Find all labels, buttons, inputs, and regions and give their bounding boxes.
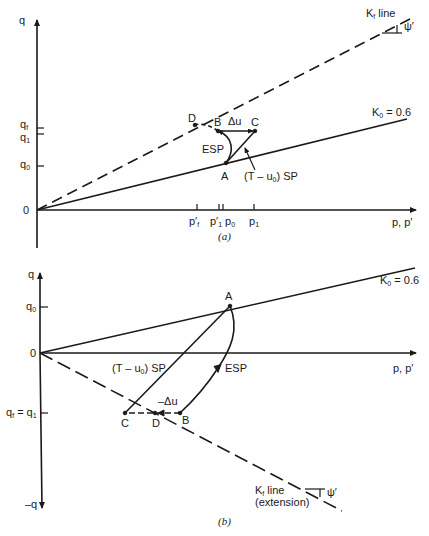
k0-line-b (40, 268, 415, 353)
tsp-label-b: (T – u0) SP (112, 362, 166, 375)
caption-b: (b) (218, 515, 231, 528)
point-label-d-a: D (188, 112, 196, 124)
caption-a: (a) (218, 230, 231, 243)
point-label-a-a: A (221, 170, 229, 182)
q-axis-label-b: q (28, 268, 34, 280)
neg-q-axis-label-b: –q (25, 498, 37, 510)
point-label-a-b: A (225, 290, 233, 302)
point-a-a (224, 161, 228, 165)
p0-label-a: p0 (225, 215, 235, 228)
p-axis-label-a: p, p′ (392, 216, 412, 228)
point-label-d-b: D (152, 417, 160, 429)
kf-ext-line-b (40, 353, 342, 511)
psi-label-b: ψ′ (327, 486, 337, 498)
psi-label-a: ψ′ (404, 20, 414, 32)
p1prime-label-a: p′1 (210, 215, 222, 228)
p1-label-a: p1 (249, 215, 259, 228)
esp-label-a: ESP (202, 143, 224, 155)
origin-label-b: 0 (30, 347, 36, 359)
point-label-c-b: C (121, 417, 129, 429)
point-b-a (216, 129, 220, 133)
point-label-c-a: C (251, 116, 259, 128)
q1-label-a: q1 (20, 131, 30, 144)
pf-label-a: p′f (189, 215, 199, 228)
delta-u-arrowhead-b (158, 410, 164, 416)
delta-u-label-a: Δu (228, 115, 241, 127)
panel-b-labels: q q0 0 qf = q1 –q p, p′ K0 = 0.6 A ESP (… (6, 268, 419, 528)
p-axis-label-b: p, p′ (393, 362, 413, 374)
point-label-b-b: B (182, 414, 189, 426)
stress-path-diagram: q 0 qf q1 q0 p′f p′1 p0 p1 p, p′ (a) Kf … (0, 0, 429, 536)
k0-label-a: K0 = 0.6 (372, 106, 411, 119)
panel-a (37, 17, 416, 248)
q-axis-label-a: q (19, 14, 25, 26)
esp-arrowhead-b (214, 364, 221, 372)
esp-curve-b (180, 306, 234, 413)
kf-line-label-a: Kf line (366, 7, 395, 20)
origin-label-a: 0 (23, 204, 29, 216)
point-c-a (253, 129, 257, 133)
k0-label-b: K0 = 0.6 (380, 274, 419, 287)
panel-a-labels: q 0 qf q1 q0 p′f p′1 p0 p1 p, p′ (a) Kf … (19, 7, 414, 243)
tsp-label-a: (T – u0) SP (244, 170, 298, 183)
q0-label-a: q0 (20, 158, 30, 171)
point-a-b (228, 304, 232, 308)
q-axis-down-b (40, 353, 42, 508)
panel-b (40, 268, 416, 511)
esp-label-b: ESP (225, 362, 247, 374)
point-d-b (153, 411, 157, 415)
qf-label-a: qf (20, 118, 28, 131)
qf-q1-label-b: qf = q1 (6, 406, 37, 419)
point-c-b (123, 411, 127, 415)
kf-ext-sublabel-b: (extension) (255, 496, 309, 508)
delta-u-label-b: –Δu (158, 395, 178, 407)
point-label-b-a: B (214, 116, 221, 128)
q0-label-b: q0 (26, 300, 36, 313)
